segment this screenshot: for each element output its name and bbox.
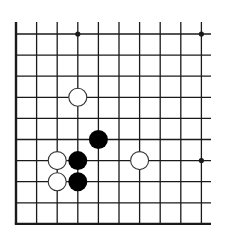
black-stone [68, 151, 87, 170]
black-stone [89, 130, 108, 149]
grid-lines [15, 22, 211, 224]
white-stone [69, 88, 87, 106]
star-point-icon [199, 31, 204, 36]
white-stone [131, 152, 149, 170]
white-stone [48, 152, 66, 170]
star-point-icon [199, 158, 204, 163]
black-stone [68, 172, 87, 191]
white-stone [48, 173, 66, 191]
star-point-icon [75, 31, 80, 36]
go-board-canvas[interactable] [0, 0, 226, 239]
go-board[interactable] [0, 0, 226, 239]
